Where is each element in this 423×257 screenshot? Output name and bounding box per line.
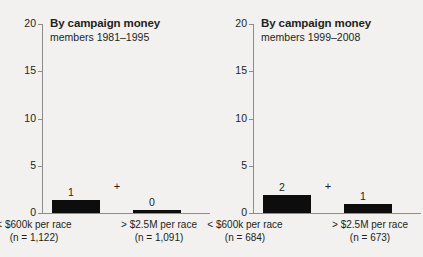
y-tick-label-15: 15: [24, 64, 36, 77]
bar-category-2: [133, 210, 181, 213]
plot-area-right: 20 15 10 5 0 2 1 +: [253, 24, 421, 213]
x-axis-line: [42, 213, 210, 214]
significance-annotation: +: [321, 181, 335, 192]
chart-figure: { "chart_data": [ { "type": "bar", "titl…: [0, 0, 423, 257]
chart-panel-left: By campaign money members 1981–1995 20 1…: [0, 0, 212, 257]
significance-annotation: +: [110, 181, 124, 192]
x-category-name-1: < $600k per race: [0, 219, 72, 230]
y-tick-label-20: 20: [235, 17, 247, 30]
x-category-n-1: (n = 684): [199, 231, 291, 244]
y-tick-label-20: 20: [24, 17, 36, 30]
x-axis-line: [253, 213, 421, 214]
y-tick-label-15: 15: [235, 64, 247, 77]
x-category-name-2: > $2.5M per race: [332, 219, 408, 230]
chart-panel-right: By campaign money members 1999–2008 20 1…: [211, 0, 423, 257]
bar-category-2: [344, 204, 392, 213]
x-category-name-2: > $2.5M per race: [121, 219, 197, 230]
y-tick-label-5: 5: [241, 159, 247, 172]
bar-category-1: [52, 200, 100, 213]
y-tick-label-10: 10: [24, 112, 36, 125]
bar-value-label-2: 1: [333, 190, 393, 202]
x-category-n-1: (n = 1,122): [0, 231, 80, 244]
x-category-n-2: (n = 1,091): [113, 231, 205, 244]
x-category-label-2: > $2.5M per race (n = 1,091): [113, 218, 205, 244]
y-tick-label-5: 5: [30, 159, 36, 172]
x-category-n-2: (n = 673): [324, 231, 416, 244]
x-category-label-2: > $2.5M per race (n = 673): [324, 218, 416, 244]
x-category-label-1: < $600k per race (n = 684): [199, 218, 291, 244]
x-category-name-1: < $600k per race: [207, 219, 282, 230]
bar-value-label-2: 0: [122, 196, 182, 208]
bar-value-label-1: 2: [252, 181, 312, 193]
x-category-label-1: < $600k per race (n = 1,122): [0, 218, 80, 244]
bar-category-1: [263, 195, 311, 213]
plot-area-left: 20 15 10 5 0 1 0 +: [42, 24, 210, 213]
y-tick-label-10: 10: [235, 112, 247, 125]
bar-value-label-1: 1: [41, 186, 101, 198]
y-axis-line: [42, 24, 43, 213]
